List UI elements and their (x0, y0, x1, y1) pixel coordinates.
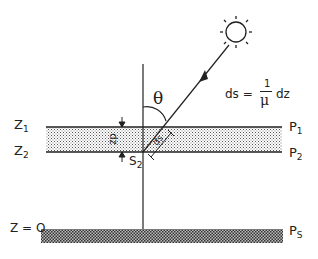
z1-label: Z1 (14, 118, 29, 131)
p1-label: P1 (289, 120, 303, 133)
z2-label: Z2 (14, 144, 29, 157)
ray-arrowhead (199, 70, 208, 82)
theta-label: θ (153, 90, 163, 107)
diagram-canvas (0, 0, 318, 259)
sun-icon (220, 16, 252, 48)
theta-arc (143, 107, 166, 121)
s2-label: S2 (129, 155, 142, 167)
z0-label: Z = O (10, 222, 45, 234)
ps-label: PS (289, 224, 303, 237)
dz-label: dz (108, 133, 118, 145)
equation-numerator: 1 (264, 79, 270, 89)
p2-label: P2 (289, 146, 303, 159)
ground-surface (41, 229, 283, 243)
equation-rhs: dz (276, 88, 290, 100)
equation: ds = 1 μ dz (225, 78, 315, 108)
equation-denominator: μ (260, 93, 269, 107)
equation-lhs: ds = (225, 88, 253, 100)
